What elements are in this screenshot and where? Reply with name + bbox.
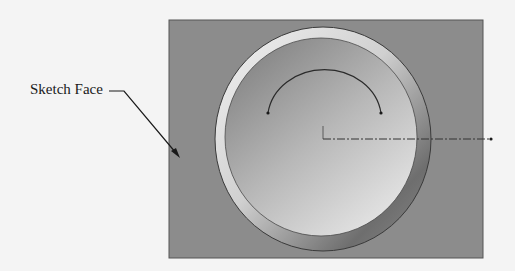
arc-start-point — [266, 111, 269, 114]
arc-end-point — [379, 111, 382, 114]
inner-face — [225, 38, 417, 236]
sketch-illustration — [0, 0, 515, 271]
diagram-canvas: Sketch Face — [0, 0, 515, 271]
centerline-end-point — [489, 137, 492, 140]
callout-label-sketch-face: Sketch Face — [30, 81, 103, 98]
callout-leader-line — [109, 91, 176, 153]
